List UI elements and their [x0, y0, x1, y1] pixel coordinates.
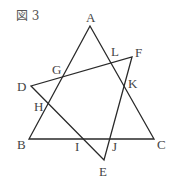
- label-f: F: [135, 45, 142, 60]
- label-k: K: [128, 76, 138, 91]
- label-g: G: [52, 62, 61, 77]
- label-d: D: [17, 79, 26, 94]
- diagram-canvas: A B C D E F G H I J K L: [0, 0, 172, 185]
- label-j: J: [112, 139, 117, 154]
- label-e: E: [99, 164, 107, 179]
- label-a: A: [86, 10, 96, 25]
- label-h: H: [34, 99, 43, 114]
- geometry-figure: 図 3 A B C D E F G H I J K L: [0, 0, 172, 185]
- label-l: L: [111, 44, 119, 59]
- label-i: I: [75, 139, 79, 154]
- figure-title: 図 3: [16, 9, 39, 23]
- label-b: B: [17, 137, 26, 152]
- label-c: C: [157, 137, 166, 152]
